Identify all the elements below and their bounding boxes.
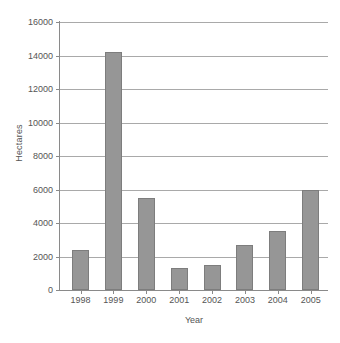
x-axis-line: [60, 290, 328, 291]
bar-1998: [72, 250, 89, 290]
y-tick-label-12000: 12000: [28, 85, 53, 94]
x-tick-2005: [311, 290, 312, 294]
y-tick-label-14000: 14000: [28, 51, 53, 60]
x-tick-1998: [81, 290, 82, 294]
x-tick-1999: [113, 290, 114, 294]
x-tick-2000: [146, 290, 147, 294]
x-tick-2003: [245, 290, 246, 294]
bar-2004: [269, 231, 286, 290]
y-tick-label-16000: 16000: [28, 18, 53, 27]
bar-series: [60, 22, 328, 290]
y-tick-label-10000: 10000: [28, 118, 53, 127]
y-tick-label-6000: 6000: [33, 185, 53, 194]
x-axis-title: Year: [60, 315, 328, 325]
y-axis-title: Hectares: [14, 108, 24, 178]
x-tick-label-2005: 2005: [291, 296, 331, 305]
y-tick-label-4000: 4000: [33, 219, 53, 228]
x-tick-2004: [278, 290, 279, 294]
bar-2002: [204, 265, 221, 290]
bar-2005: [302, 190, 319, 290]
clipped-caption: [6, 336, 336, 343]
plot-area: 0200040006000800010000120001400016000: [60, 22, 328, 290]
x-tick-2002: [212, 290, 213, 294]
y-tick-label-0: 0: [48, 286, 53, 295]
bar-2001: [171, 268, 188, 290]
y-tick-label-8000: 8000: [33, 152, 53, 161]
bar-2000: [138, 198, 155, 290]
bar-1999: [105, 52, 122, 290]
bar-2003: [236, 245, 253, 290]
bar-chart-figure: Hectares 0200040006000800010000120001400…: [0, 0, 340, 343]
x-tick-2001: [179, 290, 180, 294]
y-tick-label-2000: 2000: [33, 252, 53, 261]
